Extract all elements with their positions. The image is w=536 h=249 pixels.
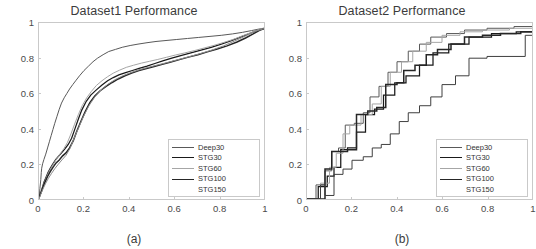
legend-line-swatch (440, 147, 462, 148)
legend-item-stg30[interactable]: STG30 (437, 153, 527, 164)
legend-label: STG150 (466, 186, 494, 194)
legend-label: STG100 (466, 175, 494, 183)
y-tick-label: 0.4 (2, 123, 34, 134)
y-tick-label: 0.6 (2, 88, 34, 99)
legend-line-swatch (440, 179, 462, 180)
legend-item-stg60[interactable]: STG60 (169, 163, 259, 174)
x-tick-label: 0.2 (345, 203, 358, 214)
chart-panel-a: Dataset1 Performance 00.20.40.60.8100.20… (0, 0, 268, 249)
legend-label: STG30 (198, 154, 222, 162)
y-tick-label: 1 (270, 17, 302, 28)
x-tick-label: 0 (35, 203, 40, 214)
legend-line-swatch (440, 168, 462, 169)
legend-item-deep30[interactable]: Deep30 (437, 142, 527, 153)
legend-label: STG100 (198, 175, 226, 183)
legend-label: STG60 (198, 165, 222, 173)
legend-label: STG30 (466, 154, 490, 162)
y-tick-label: 0 (2, 195, 34, 206)
legend-item-stg150[interactable]: STG150 (437, 184, 527, 195)
chart-panel-b: Dataset2 Performance 00.20.40.60.8100.20… (268, 0, 536, 249)
panel-b-legend: Deep30STG30STG60STG100STG150 (436, 139, 528, 197)
y-tick-label: 0.2 (270, 159, 302, 170)
y-tick-label: 0.4 (270, 123, 302, 134)
x-tick-label: 0.2 (77, 203, 90, 214)
legend-item-deep30[interactable]: Deep30 (169, 142, 259, 153)
y-tick-label: 0.8 (270, 52, 302, 63)
x-tick-label: 1 (262, 203, 267, 214)
panel-a-caption: (a) (0, 232, 268, 246)
x-tick-label: 0 (303, 203, 308, 214)
legend-item-stg150[interactable]: STG150 (169, 184, 259, 195)
y-tick-label: 1 (2, 17, 34, 28)
figure-root: Dataset1 Performance 00.20.40.60.8100.20… (0, 0, 536, 249)
legend-item-stg100[interactable]: STG100 (169, 174, 259, 185)
panel-a-title: Dataset1 Performance (0, 4, 268, 18)
panel-b-title: Dataset2 Performance (268, 4, 536, 18)
legend-line-swatch (440, 157, 462, 158)
legend-label: STG60 (466, 165, 490, 173)
panel-a-legend: Deep30STG30STG60STG100STG150 (168, 139, 260, 197)
x-tick-label: 0.8 (481, 203, 494, 214)
legend-label: Deep30 (198, 144, 224, 152)
y-tick-label: 0.8 (2, 52, 34, 63)
legend-line-swatch (172, 147, 194, 148)
legend-item-stg100[interactable]: STG100 (437, 174, 527, 185)
x-tick-label: 0.4 (122, 203, 135, 214)
legend-label: STG150 (198, 186, 226, 194)
panel-b-caption: (b) (268, 232, 536, 246)
x-tick-label: 0.6 (436, 203, 449, 214)
legend-label: Deep30 (466, 144, 492, 152)
y-tick-label: 0 (270, 195, 302, 206)
x-tick-label: 0.4 (390, 203, 403, 214)
legend-line-swatch (172, 179, 194, 180)
legend-line-swatch (172, 157, 194, 158)
x-tick-label: 1 (530, 203, 535, 214)
legend-line-swatch (172, 168, 194, 169)
x-tick-label: 0.8 (213, 203, 226, 214)
legend-item-stg30[interactable]: STG30 (169, 153, 259, 164)
y-tick-label: 0.2 (2, 159, 34, 170)
y-tick-label: 0.6 (270, 88, 302, 99)
x-tick-label: 0.6 (168, 203, 181, 214)
legend-item-stg60[interactable]: STG60 (437, 163, 527, 174)
